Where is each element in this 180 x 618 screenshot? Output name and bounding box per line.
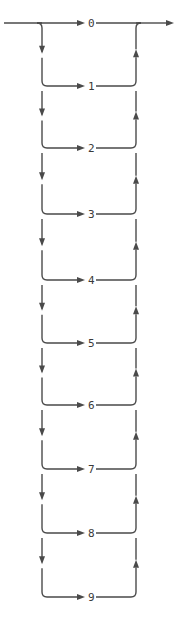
merge-curve — [136, 23, 141, 28]
arrow-right-icon — [77, 277, 85, 283]
arrow-up-icon — [133, 242, 139, 250]
arrow-down-icon — [39, 428, 45, 436]
arrow-right-icon — [77, 402, 85, 408]
choice-row-7: 7 — [42, 463, 136, 476]
choice-line-out — [96, 528, 136, 533]
choice-label: 9 — [88, 591, 95, 604]
choice-label: 8 — [88, 527, 95, 540]
choice-label: 1 — [88, 80, 95, 93]
choice-line-in — [42, 143, 80, 148]
arrow-up-icon — [133, 112, 139, 120]
arrow-down-icon — [39, 556, 45, 564]
choice-label: 4 — [88, 274, 95, 287]
diagram-rails — [4, 20, 174, 592]
branch-curve — [37, 23, 42, 28]
arrow-right-icon — [77, 466, 85, 472]
arrow-right-icon — [77, 530, 85, 536]
digit-syntax-diagram: 0123456789 — [0, 0, 180, 618]
choice-line-in — [42, 81, 80, 86]
choice-rows: 0123456789 — [37, 17, 141, 604]
choice-row-5: 5 — [42, 337, 136, 350]
choice-row-2: 2 — [42, 142, 136, 155]
arrow-right-icon — [77, 20, 85, 26]
arrow-right-icon — [77, 211, 85, 217]
arrow-down-icon — [39, 365, 45, 373]
choice-row-9: 9 — [42, 591, 136, 604]
choice-line-in — [42, 464, 80, 469]
arrow-up-icon — [133, 176, 139, 184]
choice-row-3: 3 — [42, 208, 136, 221]
choice-label: 6 — [88, 399, 95, 412]
choice-row-8: 8 — [42, 527, 136, 540]
arrow-down-icon — [39, 492, 45, 500]
arrow-right-icon — [77, 83, 85, 89]
arrow-up-icon — [133, 369, 139, 377]
choice-label: 7 — [88, 463, 95, 476]
choice-row-4: 4 — [42, 274, 136, 287]
arrow-down-icon — [39, 238, 45, 246]
arrow-up-icon — [133, 496, 139, 504]
choice-line-in — [42, 592, 80, 597]
choice-label: 2 — [88, 142, 95, 155]
arrow-up-icon — [133, 49, 139, 57]
exit-arrow-icon — [166, 20, 174, 26]
arrow-up-icon — [133, 432, 139, 440]
choice-row-1: 1 — [42, 80, 136, 93]
choice-label: 0 — [88, 17, 95, 30]
arrow-down-icon — [39, 303, 45, 311]
choice-row-0: 0 — [37, 17, 141, 30]
choice-line-out — [96, 592, 136, 597]
arrow-down-icon — [39, 108, 45, 116]
choice-line-in — [42, 338, 80, 343]
arrow-right-icon — [77, 340, 85, 346]
arrow-down-icon — [39, 46, 45, 54]
choice-line-in — [42, 209, 80, 214]
arrow-down-icon — [39, 172, 45, 180]
choice-line-out — [96, 275, 136, 280]
arrow-up-icon — [133, 306, 139, 314]
choice-line-out — [96, 81, 136, 86]
arrow-right-icon — [77, 145, 85, 151]
choice-line-out — [96, 338, 136, 343]
choice-line-out — [96, 400, 136, 405]
choice-line-out — [96, 464, 136, 469]
choice-row-6: 6 — [42, 399, 136, 412]
choice-line-in — [42, 400, 80, 405]
choice-line-out — [96, 209, 136, 214]
choice-line-in — [42, 275, 80, 280]
arrow-up-icon — [133, 560, 139, 568]
choice-label: 3 — [88, 208, 95, 221]
choice-label: 5 — [88, 337, 95, 350]
choice-line-out — [96, 143, 136, 148]
choice-line-in — [42, 528, 80, 533]
arrow-right-icon — [77, 594, 85, 600]
